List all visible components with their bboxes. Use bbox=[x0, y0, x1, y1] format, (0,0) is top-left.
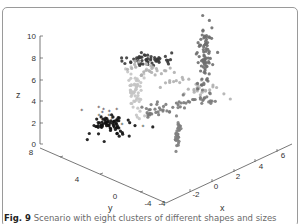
data-point bbox=[187, 88, 190, 91]
data-point bbox=[145, 69, 148, 72]
data-point bbox=[175, 79, 178, 82]
data-point bbox=[137, 91, 140, 94]
data-point bbox=[165, 109, 168, 112]
caption-text: Scenario with eight clusters of differen… bbox=[34, 213, 277, 223]
data-point bbox=[175, 132, 178, 135]
data-point bbox=[211, 85, 214, 88]
data-point bbox=[200, 78, 203, 81]
data-point bbox=[154, 73, 157, 76]
data-point bbox=[146, 57, 149, 60]
y-axis-label: y bbox=[108, 203, 113, 213]
data-point bbox=[149, 108, 152, 111]
data-point bbox=[127, 119, 130, 122]
data-point bbox=[184, 102, 187, 105]
data-point bbox=[196, 87, 199, 90]
x-tick-label: 4 bbox=[259, 162, 264, 171]
data-point bbox=[201, 99, 204, 102]
data-point bbox=[130, 102, 133, 105]
x-tick-label: 0 bbox=[214, 182, 219, 191]
data-point-star: * bbox=[97, 123, 100, 130]
data-point bbox=[129, 72, 132, 75]
data-point bbox=[130, 84, 133, 87]
data-point bbox=[182, 93, 185, 96]
data-point-star: * bbox=[101, 116, 104, 123]
data-point bbox=[132, 106, 135, 109]
data-point bbox=[204, 60, 207, 63]
data-point bbox=[204, 56, 207, 59]
data-point bbox=[162, 105, 165, 108]
data-point bbox=[204, 90, 207, 93]
figure-number: Fig. 9 bbox=[4, 213, 31, 223]
data-point-star: * bbox=[121, 121, 124, 128]
x-tick-label: -2 bbox=[192, 190, 200, 199]
data-point bbox=[125, 56, 128, 59]
data-point bbox=[177, 142, 180, 145]
data-point bbox=[203, 69, 206, 72]
data-point bbox=[174, 150, 177, 153]
data-point bbox=[178, 100, 181, 103]
data-point bbox=[137, 56, 140, 59]
data-point bbox=[118, 135, 121, 138]
data-point bbox=[202, 45, 205, 48]
data-point bbox=[202, 50, 205, 53]
data-point bbox=[138, 117, 141, 120]
z-tick-label: 8 bbox=[32, 54, 37, 63]
data-point bbox=[197, 41, 200, 44]
data-point bbox=[169, 67, 172, 70]
data-point bbox=[140, 59, 143, 62]
data-point bbox=[216, 51, 219, 54]
data-point bbox=[150, 103, 153, 106]
data-point-star: * bbox=[102, 106, 105, 113]
data-point bbox=[134, 59, 137, 62]
data-point bbox=[208, 19, 211, 22]
data-point bbox=[149, 64, 152, 67]
data-point bbox=[210, 26, 213, 29]
data-point bbox=[160, 72, 163, 75]
data-point bbox=[157, 110, 160, 113]
data-point bbox=[167, 62, 170, 65]
data-point bbox=[137, 60, 140, 63]
data-point bbox=[120, 56, 123, 59]
data-point-star: * bbox=[142, 123, 145, 130]
data-point bbox=[146, 113, 149, 116]
data-point bbox=[139, 85, 142, 88]
data-point bbox=[140, 56, 143, 59]
data-point bbox=[205, 34, 208, 37]
data-point bbox=[197, 61, 200, 64]
data-point bbox=[146, 54, 149, 57]
x-tick-label: 2 bbox=[236, 172, 241, 181]
data-point bbox=[198, 55, 201, 58]
data-point bbox=[115, 119, 118, 122]
data-point bbox=[164, 81, 167, 84]
data-point bbox=[209, 57, 212, 60]
data-point bbox=[195, 52, 198, 55]
data-point bbox=[145, 63, 148, 66]
figure-caption: Fig. 9 Scenario with eight clusters of d… bbox=[4, 213, 277, 223]
data-point bbox=[130, 67, 133, 70]
x-tick-label: 6 bbox=[281, 151, 286, 160]
data-point bbox=[158, 106, 161, 109]
data-point bbox=[157, 60, 160, 63]
data-point bbox=[156, 100, 159, 103]
data-point bbox=[88, 132, 91, 135]
data-point bbox=[157, 113, 160, 116]
data-point bbox=[170, 51, 173, 54]
data-point bbox=[135, 113, 138, 116]
data-point bbox=[175, 136, 178, 139]
data-point bbox=[159, 86, 162, 89]
data-point bbox=[169, 58, 172, 61]
data-point bbox=[171, 106, 174, 109]
data-point bbox=[162, 108, 165, 111]
data-point bbox=[175, 114, 178, 117]
data-point bbox=[140, 51, 143, 54]
data-point bbox=[149, 57, 152, 60]
data-point bbox=[200, 102, 203, 105]
data-point bbox=[206, 77, 209, 80]
data-point bbox=[201, 14, 204, 17]
z-axis-label: z bbox=[16, 90, 21, 100]
data-point bbox=[109, 127, 112, 130]
data-point bbox=[222, 92, 225, 95]
data-point bbox=[177, 103, 180, 106]
data-point bbox=[201, 88, 204, 91]
data-point bbox=[168, 79, 171, 82]
